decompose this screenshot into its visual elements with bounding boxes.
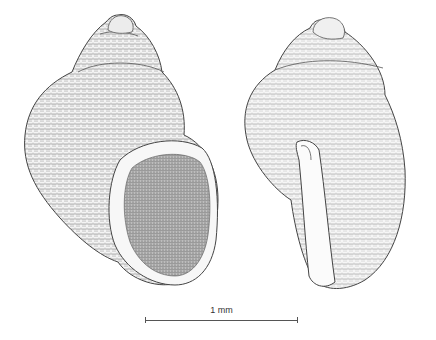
scale-bar-label: 1 mm <box>145 305 298 315</box>
scale-bar-line <box>145 320 298 321</box>
scale-bar: 1 mm <box>145 305 298 327</box>
shell-apertural-view <box>0 0 230 300</box>
scale-bar-tick-right <box>297 317 298 323</box>
scale-bar-tick-left <box>145 317 146 323</box>
shell-lateral-view <box>225 0 436 300</box>
shell-illustration-figure: 1 mm <box>0 0 436 340</box>
